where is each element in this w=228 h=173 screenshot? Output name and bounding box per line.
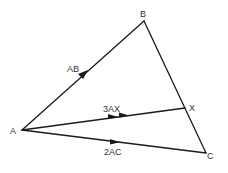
- point-label-b: B: [140, 9, 146, 19]
- vector-label-3ax: 3AX: [103, 104, 120, 114]
- arrow-ab-icon: [78, 70, 88, 79]
- point-label-c: C: [207, 151, 214, 161]
- edge-bc: [144, 21, 206, 153]
- triangle-vector-diagram: A B X C AB 3AX 2AC: [0, 0, 228, 173]
- vector-label-2ac: 2AC: [104, 147, 122, 157]
- point-label-a: A: [10, 126, 16, 136]
- vector-label-ab: AB: [67, 64, 79, 74]
- point-label-x: X: [189, 103, 195, 113]
